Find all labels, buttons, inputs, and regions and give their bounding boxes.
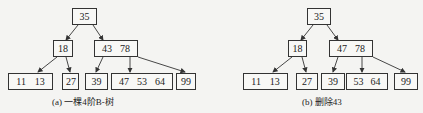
key: 64: [371, 76, 381, 87]
node-39: 39: [321, 73, 345, 90]
key: 47: [337, 43, 347, 54]
node-root-35: 35: [72, 8, 97, 25]
key: 13: [35, 76, 45, 87]
node-99: 99: [176, 73, 196, 90]
node-root-35: 35: [307, 8, 331, 25]
node-18: 18: [53, 40, 73, 57]
node-18: 18: [288, 40, 307, 57]
key: 27: [302, 76, 312, 87]
key: 27: [66, 76, 76, 87]
key: 64: [155, 76, 165, 87]
node-47-53-64: 475364: [111, 73, 173, 90]
node-43-78: 4378: [94, 40, 138, 57]
node-53-64: 5364: [346, 73, 388, 90]
key: 18: [58, 43, 68, 54]
caption-a: (a) 一棵4阶B-树: [52, 95, 114, 108]
key: 35: [80, 11, 90, 22]
key: 99: [401, 76, 411, 87]
node-11-13: 1113: [8, 73, 53, 90]
key: 78: [355, 43, 365, 54]
node-27: 27: [62, 73, 79, 90]
key: 47: [119, 76, 129, 87]
key: 53: [137, 76, 147, 87]
node-99: 99: [394, 73, 418, 90]
caption-b: (b) 删除43: [302, 95, 342, 108]
key: 11: [251, 76, 261, 87]
node-11-13: 1113: [243, 73, 288, 90]
key: 39: [92, 76, 102, 87]
node-39: 39: [85, 73, 108, 90]
key: 35: [314, 11, 324, 22]
key: 43: [102, 43, 112, 54]
node-47-78: 4778: [329, 40, 373, 57]
key: 53: [354, 76, 364, 87]
key: 13: [270, 76, 280, 87]
key: 39: [328, 76, 338, 87]
key: 99: [181, 76, 191, 87]
key: 78: [120, 43, 130, 54]
node-27: 27: [296, 73, 318, 90]
key: 11: [16, 76, 26, 87]
key: 18: [293, 43, 303, 54]
